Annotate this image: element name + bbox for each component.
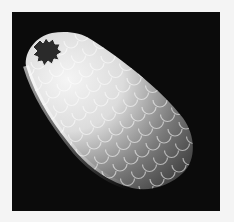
- scale-plate: [158, 194, 172, 201]
- scale-plate: [86, 27, 100, 34]
- scale-plate: [131, 57, 145, 64]
- scale-plate: [208, 65, 222, 72]
- scale-plate: [209, 123, 223, 130]
- scale-plate: [145, 28, 159, 35]
- scale-plate: [134, 35, 148, 42]
- scale-plate: [73, 171, 87, 178]
- scale-plate: [153, 43, 167, 50]
- scale-plate: [147, 201, 161, 208]
- scale-plate: [202, 166, 216, 173]
- scale-plate: [9, 76, 23, 83]
- scale-plate: [175, 86, 189, 93]
- scale-plate: [97, 20, 111, 27]
- scale-plate: [149, 64, 163, 71]
- scale-plate: [156, 21, 170, 28]
- scale-plate: [231, 109, 234, 116]
- scale-plate: [13, 112, 27, 119]
- scale-plate: [179, 65, 193, 72]
- scale-plate: [117, 200, 131, 207]
- scale-plate: [6, 98, 20, 105]
- scale-plate: [190, 58, 204, 65]
- scale-plate: [127, 21, 141, 28]
- scale-plate: [223, 94, 233, 101]
- scale-plate: [130, 0, 144, 6]
- scale-plate: [198, 130, 212, 137]
- scale-plate: [212, 101, 226, 108]
- scale-plate: [216, 80, 230, 87]
- scale-plate: [21, 127, 35, 134]
- scale-plate: [0, 90, 1, 97]
- scale-plate: [17, 91, 31, 98]
- scale-plate: [99, 193, 113, 200]
- scale-plate: [201, 108, 215, 115]
- scale-plate: [24, 105, 38, 112]
- scale-plate: [224, 152, 234, 159]
- scale-plate: [194, 94, 208, 101]
- scale-plate: [227, 130, 233, 137]
- scale-plate: [39, 134, 53, 141]
- scale-plate: [0, 83, 12, 90]
- scale-plate: [0, 105, 9, 112]
- scale-plate: [182, 43, 196, 50]
- scale-plate: [138, 14, 152, 21]
- scale-plate: [142, 50, 156, 57]
- scale-plate: [213, 159, 227, 166]
- scale-plate: [205, 87, 219, 94]
- scale-plate: [116, 28, 130, 35]
- scale-plate: [119, 6, 133, 13]
- scale-plate: [183, 101, 197, 108]
- scale-plate: [216, 137, 230, 144]
- scale-plate: [128, 193, 142, 200]
- scale-plate: [197, 72, 211, 79]
- scale-plate: [220, 116, 234, 123]
- scale-plate: [169, 187, 183, 194]
- scale-plate: [168, 72, 182, 79]
- scale-plate: [191, 173, 205, 180]
- scale-plate: [112, 49, 126, 56]
- scale-plate: [194, 151, 208, 158]
- scale-plate: [160, 57, 174, 64]
- scale-plate: [205, 144, 219, 151]
- scale-plate: [171, 50, 185, 57]
- scale-plate: [32, 120, 46, 127]
- scale-plate: [91, 178, 105, 185]
- scale-plate: [108, 13, 122, 20]
- scale-plate: [157, 79, 171, 86]
- scale-plate: [136, 208, 150, 215]
- micrograph: [0, 0, 233, 221]
- scale-plate: [186, 79, 200, 86]
- scale-plate: [164, 36, 178, 43]
- scale-plate: [105, 35, 119, 42]
- scale-plate: [180, 180, 194, 187]
- scale-plate: [123, 42, 137, 49]
- scale-plate: [47, 149, 61, 156]
- scale-plate: [125, 215, 139, 222]
- scale-plate: [190, 115, 204, 122]
